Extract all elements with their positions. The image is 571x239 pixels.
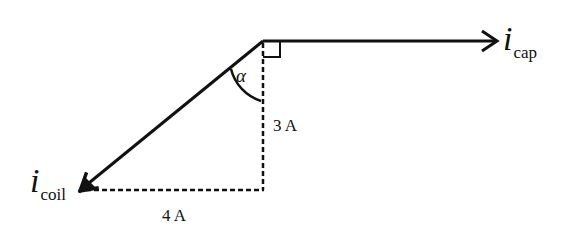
right-angle-marker bbox=[263, 41, 280, 57]
i-cap-subscript: cap bbox=[513, 43, 537, 62]
horizontal-leg-label: 4 A bbox=[162, 206, 186, 226]
i-coil-symbol: i bbox=[30, 162, 39, 199]
i-coil-vector bbox=[79, 41, 263, 191]
i-coil-label: icoil bbox=[30, 164, 66, 198]
i-cap-symbol: i bbox=[503, 20, 512, 57]
vertical-leg-label: 3 A bbox=[273, 116, 297, 136]
angle-alpha-label: α bbox=[236, 65, 246, 87]
i-cap-vector bbox=[263, 31, 497, 51]
i-coil-subscript: coil bbox=[40, 185, 66, 204]
i-cap-label: icap bbox=[503, 22, 537, 56]
